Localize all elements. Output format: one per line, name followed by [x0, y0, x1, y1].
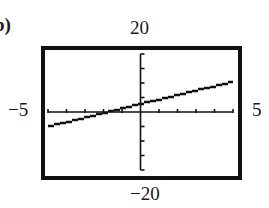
axes	[48, 54, 233, 170]
graph-plot	[0, 0, 269, 208]
